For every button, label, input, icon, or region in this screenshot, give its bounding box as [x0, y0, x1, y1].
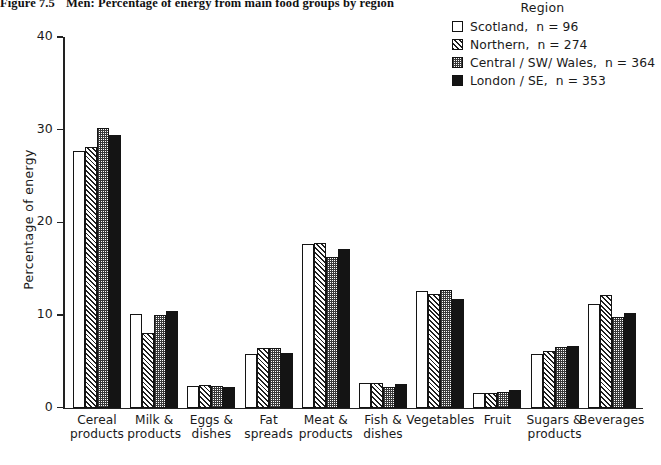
bar	[109, 135, 121, 407]
bar	[269, 348, 281, 407]
category-label-line: Beverages	[578, 413, 646, 427]
bar	[624, 313, 636, 408]
bar	[555, 347, 567, 407]
bar	[588, 304, 600, 408]
bar	[326, 257, 338, 408]
bar	[314, 243, 326, 408]
bar-group	[245, 348, 293, 407]
bar-group	[588, 295, 636, 408]
bar	[166, 311, 178, 407]
bar-group	[359, 383, 407, 408]
bar	[281, 353, 293, 408]
bar-group	[73, 128, 121, 408]
bar-group	[416, 290, 464, 408]
category-label-line: dishes	[349, 427, 417, 441]
bar-group	[187, 385, 235, 407]
bar	[338, 249, 350, 407]
bar	[473, 393, 485, 408]
category-label-line: products	[521, 427, 589, 441]
bar	[395, 384, 407, 407]
bar	[428, 294, 440, 408]
bar	[245, 354, 257, 408]
chart-plot-area: 010203040 Percentage of energy Cerealpro…	[0, 0, 661, 465]
bar	[142, 333, 154, 408]
bar-group	[302, 243, 350, 408]
bar	[359, 383, 371, 408]
bar	[85, 147, 97, 407]
bar	[97, 128, 109, 408]
bar	[302, 244, 314, 408]
bar	[600, 295, 612, 408]
bar	[416, 291, 428, 408]
bar-group	[531, 346, 579, 407]
bar	[73, 151, 85, 408]
bars-layer	[0, 0, 661, 465]
bar-group	[130, 311, 178, 407]
bar	[440, 290, 452, 408]
bar	[371, 383, 383, 408]
bar	[567, 346, 579, 407]
bar	[211, 386, 223, 407]
bar-group	[473, 390, 521, 408]
bar	[497, 392, 509, 408]
bar	[531, 354, 543, 408]
bar	[223, 387, 235, 407]
bar	[612, 317, 624, 408]
bar	[187, 386, 199, 407]
bar	[130, 314, 142, 408]
bar	[452, 299, 464, 407]
bar	[509, 390, 521, 408]
bar	[543, 351, 555, 408]
bar	[257, 348, 269, 407]
bar	[199, 385, 211, 407]
bar	[383, 387, 395, 407]
category-label: Beverages	[578, 413, 646, 427]
bar	[154, 315, 166, 408]
bar	[485, 393, 497, 408]
